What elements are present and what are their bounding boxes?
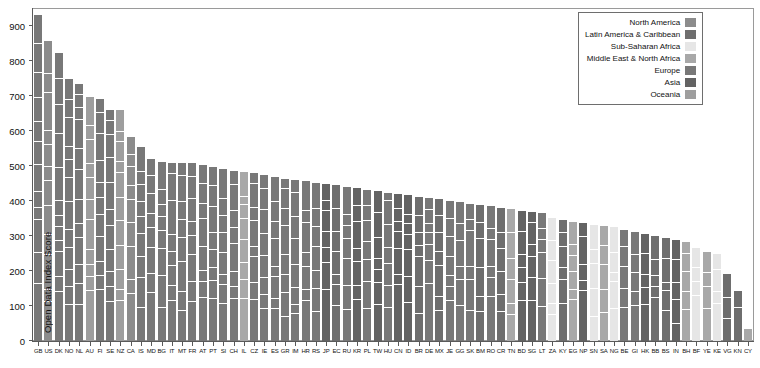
- bar[interactable]: [312, 182, 320, 341]
- bar[interactable]: [476, 204, 484, 341]
- bar[interactable]: [137, 146, 145, 341]
- bar-segment: [312, 288, 320, 311]
- bar[interactable]: [641, 233, 649, 341]
- bar-segment: [538, 228, 546, 239]
- bar[interactable]: [75, 83, 83, 341]
- legend-item[interactable]: Asia: [585, 77, 696, 88]
- bar-segment: [34, 164, 42, 192]
- bar[interactable]: [651, 235, 659, 341]
- bar-segment: [446, 256, 454, 275]
- bar-segment: [106, 209, 114, 226]
- bar[interactable]: [260, 174, 268, 341]
- bar[interactable]: [538, 212, 546, 341]
- bar[interactable]: [363, 189, 371, 341]
- legend-item[interactable]: North America: [585, 17, 696, 28]
- bar[interactable]: [518, 210, 526, 341]
- bar[interactable]: [127, 136, 135, 341]
- x-axis-tick: [213, 342, 214, 346]
- bar-segment: [466, 310, 474, 323]
- bar[interactable]: [734, 290, 742, 341]
- y-axis-tick: 500: [29, 165, 33, 166]
- bar-segment: [322, 200, 330, 211]
- bar-segment: [497, 271, 505, 294]
- bar[interactable]: [487, 205, 495, 341]
- bar[interactable]: [723, 273, 731, 341]
- bar[interactable]: [610, 226, 618, 341]
- bar[interactable]: [631, 231, 639, 341]
- bar[interactable]: [703, 251, 711, 341]
- bar[interactable]: [466, 203, 474, 341]
- bar[interactable]: [425, 197, 433, 341]
- bar[interactable]: [168, 162, 176, 341]
- bar[interactable]: [199, 163, 207, 341]
- bar-segment: [86, 320, 94, 341]
- bar-segment: [528, 256, 536, 278]
- bar[interactable]: [374, 190, 382, 341]
- bar-segment: [425, 223, 433, 232]
- bar[interactable]: [435, 198, 443, 341]
- bar[interactable]: [713, 253, 721, 341]
- bar[interactable]: [281, 177, 289, 341]
- bar[interactable]: [343, 186, 351, 341]
- bar-segment: [281, 328, 289, 341]
- bar[interactable]: [34, 14, 42, 341]
- bar[interactable]: [86, 96, 94, 341]
- bar[interactable]: [353, 187, 361, 341]
- bar[interactable]: [507, 208, 515, 341]
- bar[interactable]: [65, 78, 73, 341]
- bar[interactable]: [158, 161, 166, 341]
- bar[interactable]: [497, 207, 505, 341]
- legend-item[interactable]: Latin America & Caribbean: [585, 29, 696, 40]
- bar[interactable]: [559, 219, 567, 341]
- bar[interactable]: [188, 162, 196, 341]
- bar[interactable]: [579, 222, 587, 341]
- bar[interactable]: [230, 170, 238, 341]
- bar-segment: [415, 286, 423, 313]
- x-axis-tick-label: SK: [466, 348, 474, 354]
- bar[interactable]: [271, 176, 279, 341]
- bar[interactable]: [744, 328, 752, 341]
- bar-segment: [363, 189, 371, 205]
- bar[interactable]: [415, 196, 423, 341]
- bar[interactable]: [394, 193, 402, 341]
- bar[interactable]: [456, 201, 464, 341]
- bar[interactable]: [692, 247, 700, 341]
- bar-segment: [415, 256, 423, 286]
- bar[interactable]: [250, 172, 258, 341]
- legend-item[interactable]: Europe: [585, 65, 696, 76]
- bar[interactable]: [569, 221, 577, 341]
- bar[interactable]: [682, 241, 690, 341]
- bar[interactable]: [240, 171, 248, 341]
- bar[interactable]: [291, 179, 299, 342]
- bar[interactable]: [147, 158, 155, 341]
- bar-segment: [230, 210, 238, 228]
- bar-segment: [466, 322, 474, 341]
- bar[interactable]: [590, 224, 598, 341]
- bar[interactable]: [384, 191, 392, 341]
- bar[interactable]: [446, 199, 454, 341]
- bar[interactable]: [528, 211, 536, 341]
- bar[interactable]: [620, 228, 628, 341]
- bar-segment: [374, 304, 382, 314]
- bar[interactable]: [96, 98, 104, 341]
- bar[interactable]: [404, 194, 412, 341]
- bar[interactable]: [548, 217, 556, 341]
- legend-item[interactable]: Sub-Saharan Africa: [585, 41, 696, 52]
- bar[interactable]: [322, 183, 330, 341]
- bar[interactable]: [209, 166, 217, 341]
- bar[interactable]: [302, 180, 310, 341]
- bar[interactable]: [662, 237, 670, 341]
- bar[interactable]: [106, 109, 114, 341]
- x-axis-tick-label: GB: [34, 348, 42, 354]
- bar-segment: [322, 289, 330, 314]
- bar[interactable]: [116, 109, 124, 341]
- bar[interactable]: [219, 168, 227, 341]
- bar[interactable]: [178, 162, 186, 341]
- legend-item[interactable]: Middle East & North Africa: [585, 53, 696, 64]
- bar[interactable]: [332, 184, 340, 341]
- bar-segment: [260, 255, 268, 277]
- x-axis-tick-label: BH: [682, 348, 690, 354]
- bar[interactable]: [672, 239, 680, 341]
- legend-item[interactable]: Oceania: [585, 89, 696, 100]
- bar[interactable]: [600, 225, 608, 341]
